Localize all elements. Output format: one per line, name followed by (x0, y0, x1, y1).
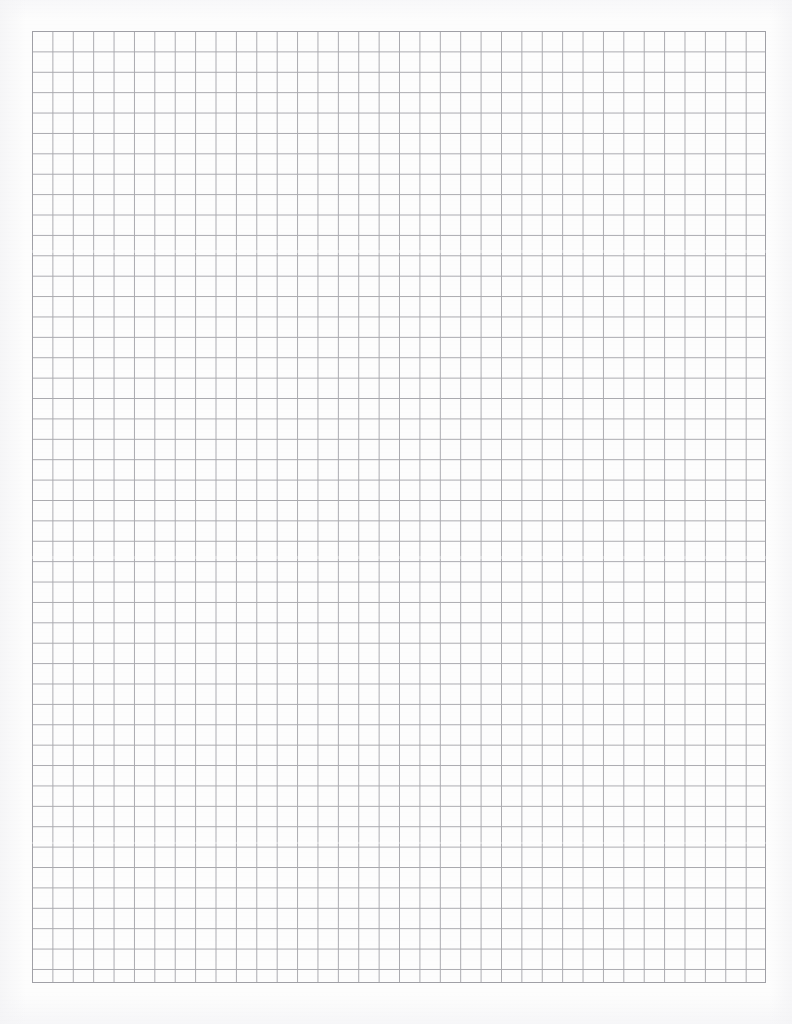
graph-paper-sheet (0, 0, 792, 1024)
graph-paper-grid (32, 31, 766, 983)
